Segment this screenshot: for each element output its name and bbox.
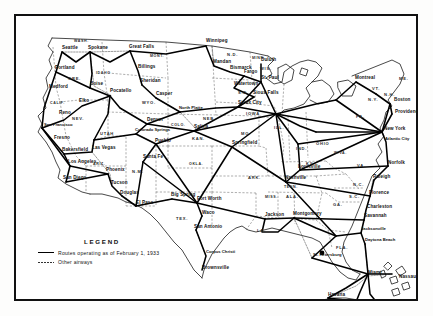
city-label-pueblo: Pueblo bbox=[155, 138, 171, 143]
state-label-ariz: ARIZ. bbox=[93, 162, 105, 166]
city-label-casper: Casper bbox=[156, 91, 172, 96]
state-label-n-m: N.M. bbox=[132, 169, 144, 174]
city-label-portland: Portland bbox=[55, 65, 75, 70]
city-label-springfield: Springfield bbox=[232, 140, 257, 145]
city-label-north-platte: North Platte bbox=[179, 105, 203, 110]
state-label-me: ME. bbox=[399, 76, 409, 81]
city-label-montreal: Montreal bbox=[355, 75, 375, 80]
state-label-wyo: WYO. bbox=[142, 100, 156, 105]
city-label-pocatello: Pocatello bbox=[110, 88, 132, 93]
city-label-elko: Elko bbox=[79, 98, 89, 103]
city-label-norfolk: Norfolk bbox=[388, 160, 405, 165]
city-label-douglas: Douglas bbox=[120, 190, 139, 195]
map-frame: SeattleSpokanePortlandMedfordBoiseGreat … bbox=[14, 14, 418, 301]
city-label-winnipeg: Winnipeg bbox=[206, 38, 228, 43]
city-label-new-york: New York bbox=[384, 126, 406, 131]
city-label-salina: Salina bbox=[194, 124, 209, 129]
state-label-tenn: TENN. bbox=[284, 185, 298, 189]
city-label-raleigh: Raleigh bbox=[373, 174, 391, 179]
city-label-providence: Providence bbox=[395, 109, 416, 114]
state-label-minn: MINN. bbox=[252, 56, 265, 60]
state-label-colo: COLO. bbox=[171, 123, 185, 127]
state-label-wash: WASH. bbox=[74, 39, 89, 43]
city-label-colorado-springs: Colorado Springs bbox=[135, 127, 171, 132]
legend-entry-operating: Routes operating as of February 1, 1933 bbox=[38, 249, 228, 256]
city-label-montgomery: Montgomery bbox=[293, 211, 322, 216]
state-label-nev: NEV. bbox=[72, 116, 84, 121]
city-label-jackson: Jackson bbox=[265, 212, 284, 217]
city-label-tucson: Tucson bbox=[111, 180, 128, 185]
state-label-ga: GA. bbox=[333, 202, 343, 207]
state-label-okla: OKLA. bbox=[189, 162, 203, 166]
legend-title: LEGEND bbox=[38, 238, 166, 245]
city-label-havana: Havana bbox=[328, 292, 345, 297]
city-label-nassau: Nassau bbox=[399, 274, 416, 279]
city-label-las-vegas: Las Vegas bbox=[92, 145, 116, 150]
city-label-sheridan: Sheridan bbox=[140, 78, 161, 83]
state-label-calif: CALIF. bbox=[50, 101, 65, 105]
city-label-watertown: Watertown bbox=[234, 81, 258, 86]
city-label-san-antonio: San Antonio bbox=[194, 224, 222, 229]
city-label-san-diego: San Diego bbox=[63, 175, 87, 180]
state-label-ore: ORE. bbox=[68, 76, 81, 81]
city-label-florence: Florence bbox=[369, 190, 389, 195]
city-label-phoenix: Phoenix bbox=[106, 167, 125, 172]
city-label-san-francisco: San Francisco bbox=[44, 122, 73, 127]
legend-solid-line-icon bbox=[38, 249, 54, 256]
city-label-sioux-falls: Sioux Falls bbox=[253, 90, 279, 95]
state-label-la: LA. bbox=[257, 228, 266, 233]
state-label-ill: ILL. bbox=[274, 125, 284, 130]
city-label-spokane: Spokane bbox=[88, 45, 108, 50]
state-label-vt: VT. bbox=[372, 86, 380, 91]
state-label-miss: MISS. bbox=[265, 195, 278, 199]
city-label-denver: Denver bbox=[147, 117, 163, 122]
city-label-daytona-beach: Daytona Beach bbox=[365, 237, 396, 242]
city-label-miami: Miami bbox=[368, 270, 382, 275]
state-label-utah: UTAH bbox=[100, 131, 114, 136]
city-label-boise: Boise bbox=[90, 81, 103, 86]
state-label-pa: PA. bbox=[356, 114, 365, 119]
state-label-neb: NEB. bbox=[203, 116, 216, 121]
state-label-tex: TEX. bbox=[176, 216, 188, 221]
state-label-n-y: N.Y. bbox=[368, 97, 379, 102]
city-label-boston: Boston bbox=[394, 97, 411, 102]
city-label-big-spring: Big Spring bbox=[171, 192, 195, 197]
legend-dashed-line-icon bbox=[38, 259, 54, 266]
legend-entry-other: Other airways bbox=[38, 259, 228, 266]
state-label-ky: KY. bbox=[306, 161, 315, 166]
city-label-savannah: Savannah bbox=[364, 213, 387, 218]
city-label-santa-fe: Santa Fe bbox=[143, 154, 163, 159]
city-label-sioux-city: Sioux City bbox=[238, 100, 262, 105]
city-label-billings: Billings bbox=[138, 64, 156, 69]
legend-label-other: Other airways bbox=[58, 259, 93, 265]
state-label-mont: MONT. bbox=[150, 54, 164, 58]
city-label-reno: Reno bbox=[59, 110, 71, 115]
state-label-kan: KAN. bbox=[192, 136, 205, 141]
state-label-ark: ARK. bbox=[248, 175, 261, 180]
city-label-medford: Medford bbox=[49, 84, 68, 89]
city-label-mandan: Mandan bbox=[213, 59, 231, 64]
state-label-ohio: OHIO bbox=[316, 141, 330, 146]
city-label-jacksonville: Jacksonville bbox=[361, 226, 387, 231]
state-label-n-c: N.C. bbox=[353, 182, 364, 187]
state-label-wis: WIS. bbox=[260, 66, 272, 71]
state-label-ala: ALA. bbox=[286, 194, 299, 199]
city-label-fargo: Fargo bbox=[244, 69, 257, 74]
state-label-idaho: IDAHO bbox=[96, 71, 111, 75]
state-label-n-h: N.H. bbox=[384, 92, 395, 97]
state-label-fla: FLA. bbox=[336, 245, 348, 250]
city-label-atlantic-city: Atlantic City bbox=[385, 136, 410, 141]
state-label-mo: MO. bbox=[241, 131, 251, 136]
city-label-fresno: Fresno bbox=[54, 135, 70, 140]
state-label-ind: IND. bbox=[296, 146, 307, 151]
state-label-w-va: W.VA. bbox=[334, 151, 347, 155]
city-label-st-petersburg: St. Petersburg bbox=[313, 252, 342, 257]
city-label-fort-worth: Fort Worth bbox=[197, 196, 222, 201]
state-label-va: VA. bbox=[357, 163, 366, 168]
screenshot-root: SeattleSpokanePortlandMedfordBoiseGreat … bbox=[0, 0, 433, 316]
city-label-nashville: Nashville bbox=[285, 175, 307, 180]
state-label-iowa: IOWA bbox=[246, 111, 260, 116]
city-label-great-falls: Great Falls bbox=[129, 44, 154, 49]
map-canvas: SeattleSpokanePortlandMedfordBoiseGreat … bbox=[16, 16, 416, 299]
city-label-waco: Waco bbox=[202, 210, 215, 215]
